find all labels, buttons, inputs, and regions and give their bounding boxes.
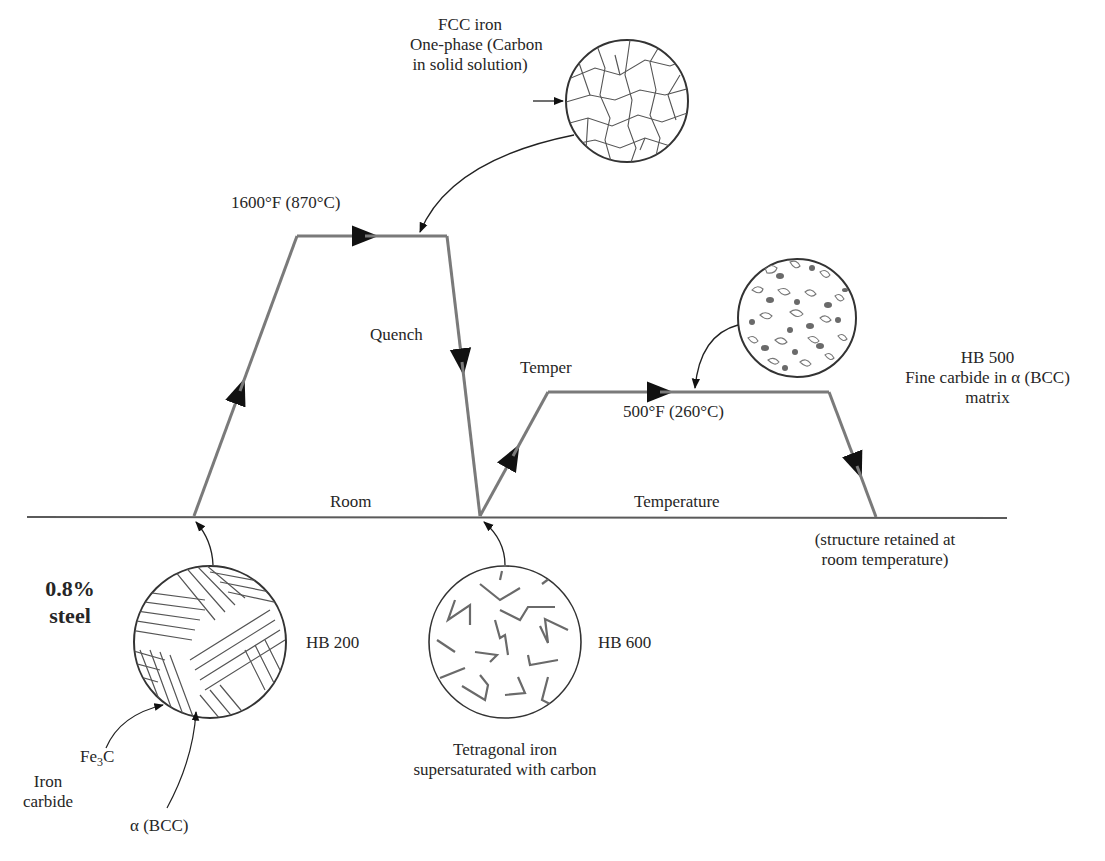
- fe3c-label: Fe3C: [80, 747, 114, 772]
- carbide-word: carbide: [18, 792, 78, 812]
- steel-word: steel: [20, 602, 120, 629]
- room-label: Room: [330, 492, 372, 512]
- fe3c-pointer-arrow: [106, 705, 163, 748]
- martensite-to-baseline-arrow: [484, 522, 505, 565]
- martensite-micrograph: [429, 566, 581, 718]
- hb-600-label: HB 600: [598, 633, 651, 653]
- supersaturated-label: supersaturated with carbon: [395, 760, 615, 780]
- fcc-label-line2: One-phase (Carbon: [410, 35, 530, 55]
- fe3c-c: C: [103, 747, 114, 766]
- tempered-micrograph: [738, 259, 856, 377]
- iron-carbide-label: Iron carbide: [18, 772, 78, 812]
- quench-label: Quench: [370, 325, 423, 345]
- tetragonal-iron-label: Tetragonal iron: [395, 740, 615, 760]
- fcc-to-plateau-arrow: [420, 135, 574, 232]
- iron-word: Iron: [18, 772, 78, 792]
- harden-path: [194, 236, 480, 516]
- temper-temperature-label: 500°F (260°C): [623, 402, 724, 422]
- tempered-structure-label: HB 500 Fine carbide in α (BCC) matrix: [895, 348, 1080, 408]
- fcc-iron-label: FCC iron One-phase (Carbon in solid solu…: [410, 15, 530, 75]
- temper-label: Temper: [520, 358, 572, 378]
- alpha-bcc-label: α (BCC): [130, 816, 189, 836]
- retained-line1: (structure retained at: [795, 530, 975, 550]
- martensite-structure-label: Tetragonal iron supersaturated with carb…: [395, 740, 615, 780]
- retained-structure-note: (structure retained at room temperature): [795, 530, 975, 570]
- fine-carbide-label: Fine carbide in α (BCC): [895, 368, 1080, 388]
- carbon-percent: 0.8%: [20, 575, 120, 602]
- fcc-label-line1: FCC iron: [410, 15, 530, 35]
- fcc-label-line3: in solid solution): [410, 55, 530, 75]
- steel-composition-label: 0.8% steel: [20, 575, 120, 629]
- pearlite-to-baseline-arrow: [196, 522, 213, 565]
- alpha-pointer-arrow: [167, 712, 196, 808]
- austenitize-temperature-label: 1600°F (870°C): [231, 193, 340, 213]
- fcc-grain-micrograph: [566, 40, 690, 165]
- hb-500-label: HB 500: [895, 348, 1080, 368]
- room-temperature-baseline: [27, 517, 1007, 518]
- retained-line2: room temperature): [795, 550, 975, 570]
- matrix-label: matrix: [895, 388, 1080, 408]
- temperature-axis-label: Temperature: [634, 492, 720, 512]
- heat-treatment-diagram: [0, 0, 1105, 861]
- temper-micrograph-arrow: [695, 325, 738, 388]
- fe3c-fe: Fe: [80, 747, 97, 766]
- pearlite-micrograph: [130, 563, 288, 725]
- hb-200-label: HB 200: [306, 633, 359, 653]
